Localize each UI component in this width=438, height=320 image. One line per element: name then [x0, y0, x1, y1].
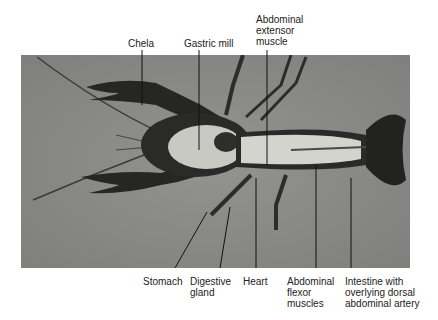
label-chela: Chela — [128, 38, 154, 49]
label-heart: Heart — [243, 276, 267, 287]
label-digestive-gland: Digestive gland — [190, 276, 231, 298]
label-abdominal-flexor-muscles: Abdominal flexor muscles — [287, 276, 334, 309]
label-intestine: Intestine with overlying dorsal abdomina… — [345, 276, 419, 309]
crayfish-illustration — [21, 55, 410, 268]
crayfish-photo — [21, 55, 410, 268]
label-abdominal-extensor-muscle: Abdominal extensor muscle — [256, 14, 303, 47]
label-gastric-mill: Gastric mill — [184, 38, 233, 49]
label-stomach: Stomach — [143, 276, 182, 287]
